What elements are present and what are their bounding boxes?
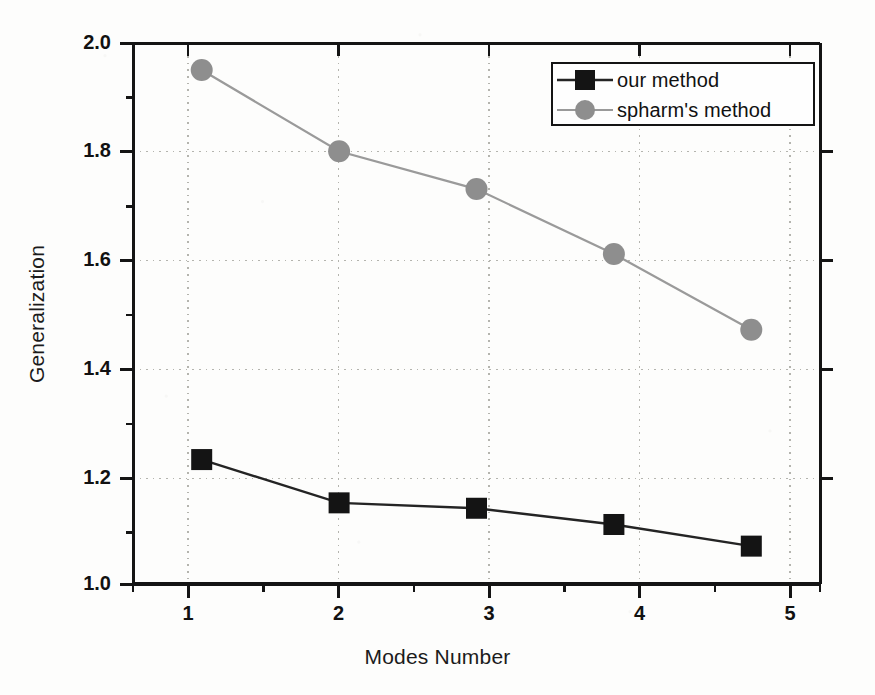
x-axis-title: Modes Number [0, 645, 875, 669]
x-tick-label-2: 2 [319, 602, 359, 625]
y-tick-label-1.8: 1.8 [51, 139, 111, 162]
data-point-our-4 [603, 514, 624, 535]
x-tick-label-1: 1 [168, 602, 208, 625]
legend-marker-filled-circle-icon [553, 95, 617, 125]
data-point-our-5 [741, 536, 762, 557]
y-tick-label-1.4: 1.4 [51, 357, 111, 380]
y-tick-label-1.2: 1.2 [51, 466, 111, 489]
data-point-our-1 [191, 449, 212, 470]
data-point-our-3 [466, 498, 487, 519]
data-point-spharm-1 [191, 59, 213, 81]
legend-label-spharm-method: spharm's method [617, 99, 771, 122]
chart-legend: our method spharm's method [551, 62, 815, 126]
series-our-method [191, 449, 762, 557]
legend-entry-our-method: our method [553, 65, 817, 95]
data-point-spharm-5 [740, 319, 762, 341]
gridlines-horizontal [133, 152, 820, 478]
data-point-spharm-2 [328, 140, 350, 162]
y-tick-label-1.0: 1.0 [51, 572, 111, 595]
y-axis-title: Generalization [25, 164, 49, 464]
x-axis-top-ticks [188, 43, 790, 56]
x-axis-major-ticks [188, 584, 790, 598]
x-tick-label-5: 5 [770, 602, 810, 625]
right-axis-ticks [820, 152, 833, 478]
x-tick-label-3: 3 [469, 602, 509, 625]
data-point-spharm-4 [603, 243, 625, 265]
data-point-our-2 [329, 492, 350, 513]
x-tick-label-4: 4 [620, 602, 660, 625]
data-point-spharm-3 [466, 178, 488, 200]
y-tick-label-2.0: 2.0 [51, 31, 111, 54]
y-tick-label-1.6: 1.6 [51, 248, 111, 271]
chart-figure: 2.0 1.8 1.6 1.4 1.2 1.0 1 2 3 4 5 Modes … [0, 0, 875, 695]
y-axis-major-ticks [120, 43, 133, 584]
legend-entry-spharm-method: spharm's method [553, 95, 817, 125]
legend-label-our-method: our method [617, 69, 719, 92]
legend-marker-filled-square-icon [553, 65, 617, 95]
